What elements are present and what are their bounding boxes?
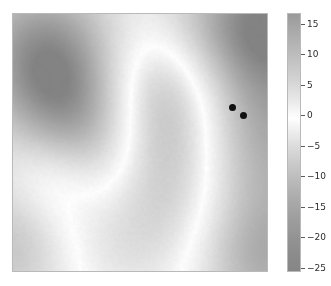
colorbar-tick-mark (301, 176, 305, 177)
colorbar-tick-mark (301, 146, 305, 147)
colorbar-tick-mark (301, 207, 305, 208)
heatmap-image (13, 14, 267, 271)
colorbar-tick-label: −5 (307, 141, 320, 150)
colorbar[interactable]: 151050−5−10−15−20−25 (287, 13, 301, 272)
colorbar-tick-label: −20 (307, 232, 326, 241)
figure-canvas: 151050−5−10−15−20−25 (0, 0, 331, 286)
colorbar-gradient (287, 13, 301, 272)
colorbar-tick-mark (301, 24, 305, 25)
colorbar-tick-label: 0 (307, 110, 313, 119)
colorbar-tick-mark (301, 268, 305, 269)
colorbar-tick-mark (301, 237, 305, 238)
colorbar-tick-label: 15 (307, 20, 318, 29)
colorbar-tick-label: −10 (307, 172, 326, 181)
colorbar-tick-label: −15 (307, 202, 326, 211)
colorbar-tick-mark (301, 115, 305, 116)
colorbar-tick-label: 5 (307, 80, 313, 89)
heatmap-axes[interactable] (12, 13, 268, 272)
colorbar-tick-mark (301, 54, 305, 55)
colorbar-tick-mark (301, 85, 305, 86)
colorbar-tick-label: 10 (307, 50, 318, 59)
colorbar-tick-label: −25 (307, 263, 326, 272)
